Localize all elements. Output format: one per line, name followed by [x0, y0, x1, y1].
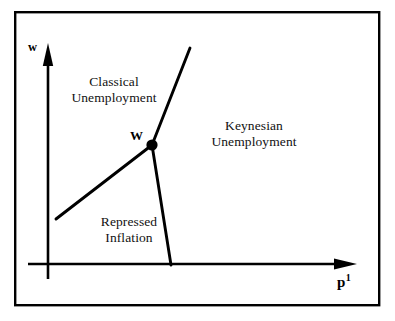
walrasian-point-label: W	[130, 128, 143, 144]
price-axis-label: p1	[337, 274, 351, 291]
walrasian-equilibrium-point	[146, 139, 157, 150]
price-axis-label-base: p	[337, 274, 345, 290]
repressed-inflation-line1: Repressed	[76, 214, 182, 230]
classical-repressed-boundary	[56, 145, 152, 219]
price-axis-arrowhead	[334, 258, 357, 269]
repressed-keynesian-boundary	[152, 145, 171, 265]
wage-axis-arrowhead	[43, 43, 53, 66]
diagram-canvas	[0, 0, 395, 321]
price-axis-label-superscript: 1	[346, 272, 351, 283]
classical-unemployment-line2: Unemployment	[58, 90, 170, 106]
figure-root: Classical Unemployment Keynesian Unemplo…	[0, 0, 395, 321]
repressed-inflation-line2: Inflation	[76, 230, 182, 246]
keynesian-unemployment-line2: Unemployment	[196, 134, 312, 150]
figure-border	[15, 12, 379, 305]
keynesian-unemployment-label: Keynesian Unemployment	[196, 118, 312, 150]
repressed-inflation-label: Repressed Inflation	[76, 214, 182, 246]
wage-axis-label: w	[28, 40, 37, 55]
classical-unemployment-label: Classical Unemployment	[58, 74, 170, 106]
keynesian-unemployment-line1: Keynesian	[196, 118, 312, 134]
classical-unemployment-line1: Classical	[58, 74, 170, 90]
